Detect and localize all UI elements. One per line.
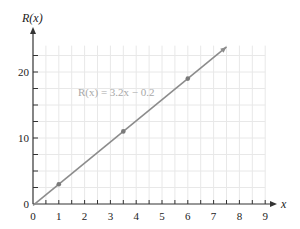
series-line <box>33 47 227 205</box>
grid-lines <box>33 46 265 204</box>
x-tick-label: 0 <box>30 210 36 222</box>
x-axis-title: x <box>280 197 287 211</box>
y-tick-labels: 01020 <box>18 66 30 210</box>
chart: 0123456789 01020 R(x) = 3.2x − 0.2 R(x) … <box>0 0 300 229</box>
x-tick-label: 9 <box>262 210 268 222</box>
data-series <box>33 47 227 205</box>
y-tick-label: 20 <box>18 66 30 78</box>
x-axis-arrow-icon <box>270 201 277 207</box>
data-point <box>121 129 126 134</box>
x-tick-label: 5 <box>159 210 165 222</box>
equation-label: R(x) = 3.2x − 0.2 <box>78 86 155 99</box>
y-tick-label: 10 <box>18 132 30 144</box>
x-tick-label: 6 <box>185 210 191 222</box>
x-tick-label: 1 <box>56 210 62 222</box>
data-point <box>186 76 191 81</box>
x-tick-labels: 0123456789 <box>30 210 268 222</box>
x-tick-label: 7 <box>211 210 217 222</box>
x-tick-label: 8 <box>237 210 243 222</box>
data-point <box>57 182 62 187</box>
y-tick-label: 0 <box>24 198 30 210</box>
x-tick-label: 3 <box>108 210 114 222</box>
x-tick-label: 4 <box>133 210 139 222</box>
y-axis-title: R(x) <box>21 11 43 25</box>
y-axis-arrow-icon <box>30 27 36 34</box>
x-tick-label: 2 <box>82 210 88 222</box>
axes <box>30 27 277 207</box>
